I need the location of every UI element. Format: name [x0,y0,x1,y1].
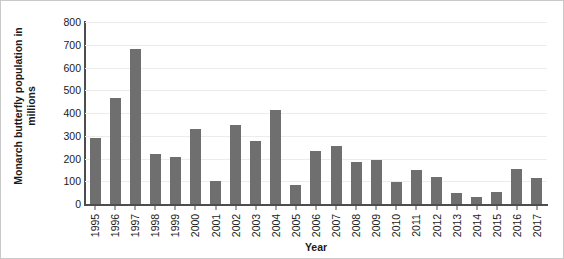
bar-slot [105,22,125,204]
x-axis-tick-mark [115,206,116,210]
bar-slot [366,22,386,204]
x-axis-tick-mark [295,206,296,210]
bar-slot [165,22,185,204]
bar-slot [206,22,226,204]
bar[interactable] [210,181,221,204]
bar[interactable] [411,170,422,204]
x-axis-tick-label: 2017 [531,214,542,237]
y-axis-tick-labels: 0100200300400500600700800 [41,1,81,259]
y-axis-title-line1: Monarch butterfly population in [12,27,24,185]
bar[interactable] [250,141,261,204]
x-axis-title: Year [85,241,547,253]
y-axis-tick-label: 0 [47,199,81,210]
x-axis-tick-label: 1999 [170,214,181,237]
x-axis-tick-mark [336,206,337,210]
x-axis-tick-mark [175,206,176,210]
bar-slot [286,22,306,204]
bar-slot [266,22,286,204]
y-axis-title-line2: millions [25,27,38,185]
y-axis-tick-label: 700 [47,39,81,50]
bar[interactable] [290,185,301,204]
bar-slot [386,22,406,204]
bar[interactable] [531,178,542,204]
x-axis-tick-label: 2007 [331,214,342,237]
x-axis-tick-mark [155,206,156,210]
bar-slot [527,22,547,204]
bar[interactable] [170,157,181,204]
bar[interactable] [190,129,201,204]
x-axis-tick-label: 2008 [351,214,362,237]
x-axis-tick-mark [315,206,316,210]
x-axis-tick-label: 2016 [511,214,522,237]
bar[interactable] [331,146,342,204]
x-axis-tick-label: 2013 [451,214,462,237]
bar-slot [185,22,205,204]
bar-slot [306,22,326,204]
bar[interactable] [511,169,522,204]
bar[interactable] [90,138,101,204]
x-axis-tick-label: 1995 [90,214,101,237]
x-axis-tick-label: 2009 [371,214,382,237]
y-axis-tick-label: 300 [47,130,81,141]
bar-slot [426,22,446,204]
x-axis-tick-mark [235,206,236,210]
x-axis-tick-label: 2004 [270,214,281,237]
bar[interactable] [451,193,462,204]
bar-slot [487,22,507,204]
bar-slot [467,22,487,204]
bar[interactable] [130,49,141,204]
x-axis-tick-label: 1996 [110,214,121,237]
x-axis-tick-mark [356,206,357,210]
x-axis-tick-label: 2002 [230,214,241,237]
bar[interactable] [351,162,362,204]
bar[interactable] [150,154,161,204]
x-axis-tick-mark [476,206,477,210]
x-axis-tick-mark [215,206,216,210]
x-axis-tick-label: 2001 [210,214,221,237]
bar[interactable] [270,110,281,204]
x-axis-tick-label: 1997 [130,214,141,237]
bar-slot [125,22,145,204]
y-axis-tick-label: 100 [47,176,81,187]
plot-area [85,22,547,204]
x-axis-tick-label: 2012 [431,214,442,237]
x-axis-tick-mark [516,206,517,210]
y-axis-tick-label: 500 [47,85,81,96]
x-axis-tick-label: 2006 [310,214,321,237]
y-axis-tick-label: 800 [47,17,81,28]
x-axis-tick-label: 2010 [391,214,402,237]
bar[interactable] [110,98,121,204]
x-axis-tick-mark [456,206,457,210]
x-axis-tick-mark [396,206,397,210]
bar[interactable] [471,197,482,204]
x-axis-tick-mark [496,206,497,210]
bar[interactable] [371,160,382,204]
bar[interactable] [230,125,241,204]
bar[interactable] [491,192,502,204]
bar-slot [145,22,165,204]
x-axis-tick-mark [416,206,417,210]
bar-slot [507,22,527,204]
bar-slot [226,22,246,204]
x-axis-tick-label: 2014 [471,214,482,237]
y-axis-tick-label: 600 [47,62,81,73]
x-axis-tick-mark [536,206,537,210]
x-axis-tick-mark [135,206,136,210]
x-axis-tick-label: 2000 [190,214,201,237]
bar-slot [447,22,467,204]
x-axis-tick-mark [95,206,96,210]
x-axis-tick-mark [255,206,256,210]
x-axis-tick-label: 1998 [150,214,161,237]
bar-slot [346,22,366,204]
x-axis-tick-label: 2003 [250,214,261,237]
x-axis-tick-label: 2015 [491,214,502,237]
bar-slot [326,22,346,204]
bar-slot [246,22,266,204]
x-axis-tick-mark [436,206,437,210]
bar[interactable] [310,151,321,204]
bar[interactable] [431,177,442,204]
y-axis-tick-label: 200 [47,153,81,164]
bar-slot [406,22,426,204]
bar[interactable] [391,182,402,204]
x-axis-tick-label: 2005 [290,214,301,237]
